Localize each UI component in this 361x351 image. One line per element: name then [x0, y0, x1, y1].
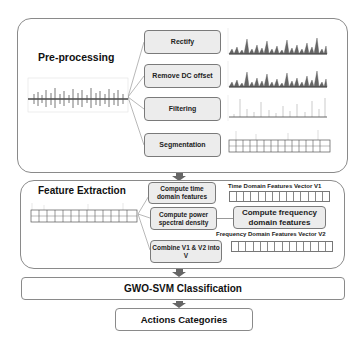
combine-v1-v2-label: Combine V1 & V2 into V [151, 244, 221, 260]
filtered-signal-plot [226, 94, 329, 124]
rectified-signal-plot [226, 27, 329, 57]
compute-time-domain-features-label: Compute time domain features [149, 185, 215, 201]
frequency-domain-vector-label: Frequency Domain Features Vector V2 [216, 231, 326, 237]
gwo-svm-classification-title: GWO-SVM Classification [124, 283, 242, 294]
segmentation-step: Segmentation [144, 133, 221, 157]
filtering-label: Filtering [169, 105, 197, 113]
remove-dc-offset-step: Remove DC offset [144, 64, 221, 88]
preprocessing-title: Pre-processing [38, 51, 114, 63]
compute-psd-step: Compute power spectral density [150, 207, 217, 230]
gwo-svm-classification-box: GWO-SVM Classification [21, 277, 345, 300]
time-domain-features-vector [229, 191, 330, 202]
segmented-signal-plot [226, 128, 334, 160]
psd-to-freq-connector [217, 218, 233, 219]
dc-removed-signal-plot [226, 60, 329, 90]
rectify-label: Rectify [171, 38, 194, 46]
actions-categories-title: Actions Categories [141, 314, 228, 325]
feature-extraction-title: Feature Extraction [38, 185, 126, 196]
compute-frequency-domain-features-step: Compute frequency domain features [233, 206, 326, 229]
rectify-step: Rectify [144, 30, 221, 54]
filtering-step: Filtering [144, 97, 221, 121]
compute-frequency-domain-features-label: Compute frequency domain features [234, 208, 325, 228]
actions-categories-box: Actions Categories [115, 308, 253, 331]
raw-emg-signal-plot [24, 76, 130, 116]
segmentation-label: Segmentation [159, 141, 205, 149]
combine-v1-v2-step: Combine V1 & V2 into V [150, 240, 222, 263]
compute-time-domain-features-step: Compute time domain features [148, 182, 216, 204]
compute-psd-label: Compute power spectral density [151, 211, 216, 227]
remove-dc-offset-label: Remove DC offset [152, 72, 212, 80]
segmented-signal-thumbnail [28, 201, 140, 231]
time-domain-vector-label: Time Domain Features Vector V1 [228, 183, 321, 189]
frequency-domain-features-vector [231, 241, 333, 252]
